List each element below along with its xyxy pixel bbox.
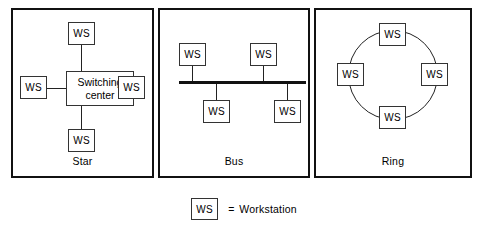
workstation-label: WS [279, 107, 296, 117]
legend-meaning-label: Workstation [239, 203, 296, 215]
legend-symbol-label: WS [196, 204, 213, 215]
switching-center-label-line2: center [85, 89, 114, 102]
star-workstation-right: WS [118, 76, 145, 99]
star-workstation-top: WS [68, 22, 95, 45]
panel-star: Switching center WS WS WS WS Star [11, 8, 154, 178]
bus-link-top-left [192, 66, 193, 82]
bus-link-bottom-left [216, 84, 217, 101]
legend-workstation-symbol: WS [191, 198, 218, 220]
panel-ring-label: Ring [316, 155, 470, 167]
bus-trunk-line [179, 81, 306, 84]
bus-workstation-top-right: WS [250, 43, 277, 66]
bus-workstation-bottom-right: WS [274, 100, 301, 123]
workstation-label: WS [184, 50, 201, 60]
workstation-label: WS [384, 30, 401, 40]
ring-workstation-top: WS [379, 23, 406, 46]
workstation-label: WS [384, 113, 401, 123]
workstation-label: WS [426, 70, 443, 80]
bus-link-bottom-right [287, 84, 288, 101]
panel-ring: WS WS WS WS Ring [314, 8, 472, 178]
workstation-label: WS [25, 83, 42, 93]
workstation-label: WS [123, 83, 140, 93]
bus-workstation-top-left: WS [179, 43, 206, 66]
panel-star-label: Star [13, 155, 152, 167]
star-workstation-bottom: WS [68, 129, 95, 152]
workstation-label: WS [73, 29, 90, 39]
bus-link-top-right [263, 66, 264, 82]
network-topology-diagram: Switching center WS WS WS WS Star WS [0, 0, 488, 234]
legend: WS = Workstation [0, 196, 488, 222]
star-link-top [81, 45, 82, 71]
ring-workstation-right: WS [421, 63, 448, 86]
panel-bus-label: Bus [160, 155, 308, 167]
legend-equals-sign: = [228, 203, 234, 215]
workstation-label: WS [208, 107, 225, 117]
bus-workstation-bottom-left: WS [203, 100, 230, 123]
workstation-label: WS [73, 136, 90, 146]
workstation-label: WS [342, 70, 359, 80]
ring-workstation-left: WS [337, 63, 364, 86]
star-link-bottom [81, 106, 82, 130]
star-workstation-left: WS [20, 76, 47, 99]
workstation-label: WS [255, 50, 272, 60]
panel-bus: WS WS WS WS Bus [158, 8, 310, 178]
ring-workstation-bottom: WS [379, 106, 406, 129]
switching-center-label-line1: Switching [78, 76, 123, 89]
